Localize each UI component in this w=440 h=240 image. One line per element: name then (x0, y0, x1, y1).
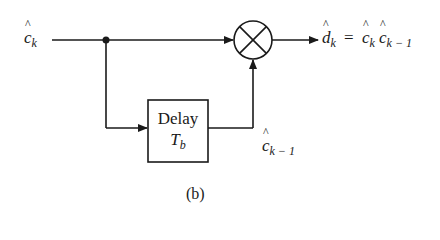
output-label: dk = ck ck − 1 (322, 28, 412, 51)
junction-dot (103, 37, 110, 44)
delay-block: Delay Tb (148, 100, 208, 162)
feedback-label: ck − 1 (262, 136, 295, 159)
delay-label: Delay (148, 108, 208, 129)
input-label: ck (24, 28, 37, 51)
delay-period: Tb (148, 129, 208, 156)
figure-caption: (b) (186, 185, 205, 203)
